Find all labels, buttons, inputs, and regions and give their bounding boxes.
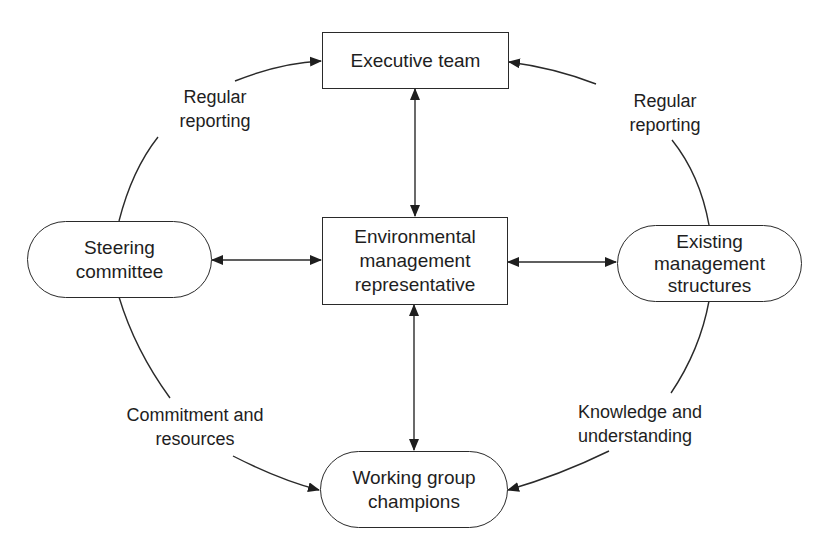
node-label: Working group [352, 466, 475, 490]
node-label: champions [368, 490, 460, 514]
node-label: Existing [676, 231, 743, 253]
node-label: structures [668, 275, 751, 297]
node-steering-committee: Steering committee [27, 221, 212, 298]
node-label: Executive team [351, 49, 481, 73]
node-working-group-champions: Working group champions [320, 451, 508, 528]
node-executive-team: Executive team [322, 32, 509, 89]
node-label: management [360, 249, 471, 273]
edge-steering-to-executive-lower [119, 137, 158, 221]
node-label: representative [355, 273, 475, 297]
edge-label-commitment-and-resources: Commitment and resources [90, 403, 300, 451]
edge-steering-to-executive-upper [235, 61, 321, 81]
edge-label-regular-reporting-right: Regular reporting [590, 89, 740, 137]
edge-existing-to-working-lower [508, 451, 609, 490]
node-label: Steering [84, 236, 155, 260]
edge-label-line: Commitment and [90, 403, 300, 427]
environmental-management-diagram: Executive team Environmental management … [0, 0, 828, 553]
edge-steering-to-working-lower [233, 456, 319, 490]
edge-label-knowledge-and-understanding: Knowledge and understanding [578, 400, 738, 448]
edge-label-line: understanding [578, 424, 738, 448]
node-label: committee [76, 260, 164, 284]
edge-label-line: Knowledge and [578, 400, 738, 424]
edge-existing-to-working-upper [671, 301, 709, 393]
edge-label-line: resources [90, 427, 300, 451]
edge-existing-to-executive-lower [672, 140, 709, 225]
node-environmental-management-representative: Environmental management representative [322, 217, 508, 305]
node-existing-management-structures: Existing management structures [617, 225, 802, 302]
edge-label-line: reporting [140, 109, 290, 133]
edge-label-line: Regular [140, 85, 290, 109]
edge-existing-to-executive-upper [509, 62, 596, 84]
node-label: management [654, 253, 765, 275]
edge-label-regular-reporting-left: Regular reporting [140, 85, 290, 133]
edge-steering-to-working-upper [119, 297, 170, 398]
edge-label-line: reporting [590, 113, 740, 137]
edge-label-line: Regular [590, 89, 740, 113]
node-label: Environmental [354, 225, 475, 249]
